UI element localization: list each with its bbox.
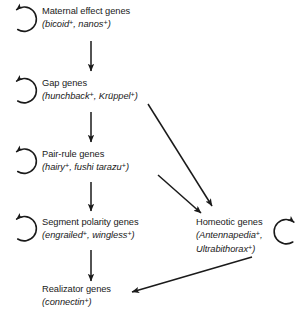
segment-polarity-genes-title: Segment polarity genes bbox=[42, 217, 139, 228]
self-regulation-loop-pair-rule bbox=[17, 149, 37, 173]
homeotic-genes-list-line2: Ultrabithorax+) bbox=[196, 242, 263, 256]
segment-polarity-genes-list: (engrailed+, wingless+) bbox=[42, 228, 139, 242]
realizator-genes-list: (connectin+) bbox=[42, 295, 111, 309]
pair-rule-genes-title: Pair-rule genes bbox=[42, 149, 129, 160]
arrow-pair-rule-to-homeotic bbox=[158, 175, 201, 213]
realizator-genes-title: Realizator genes bbox=[42, 284, 111, 295]
self-regulation-loop-gap bbox=[17, 78, 37, 102]
maternal-effect-genes-title: Maternal effect genes bbox=[42, 6, 130, 17]
self-regulation-loop-maternal bbox=[17, 7, 37, 31]
self-regulation-loop-segment-polarity bbox=[17, 216, 37, 240]
node-realizator-genes: Realizator genes (connectin+) bbox=[42, 284, 111, 309]
pair-rule-genes-list: (hairy+, fushi tarazu+) bbox=[42, 160, 129, 174]
homeotic-genes-list-line1: (Antennapedia+, bbox=[196, 228, 263, 242]
node-gap-genes: Gap genes (hunchback+, Krüppel+) bbox=[42, 78, 138, 103]
node-homeotic-genes: Homeotic genes (Antennapedia+, Ultrabith… bbox=[196, 217, 263, 256]
self-regulation-loop-homeotic bbox=[274, 219, 294, 243]
node-pair-rule-genes: Pair-rule genes (hairy+, fushi tarazu+) bbox=[42, 149, 129, 174]
arrow-gap-to-homeotic bbox=[148, 104, 212, 206]
node-segment-polarity-genes: Segment polarity genes (engrailed+, wing… bbox=[42, 217, 139, 242]
gene-hierarchy-diagram: Maternal effect genes (bicoid+, nanos+) … bbox=[0, 0, 302, 317]
maternal-effect-genes-list: (bicoid+, nanos+) bbox=[42, 17, 130, 31]
homeotic-genes-title: Homeotic genes bbox=[196, 217, 263, 228]
arrow-homeotic-to-realizator bbox=[132, 257, 252, 292]
node-maternal-effect-genes: Maternal effect genes (bicoid+, nanos+) bbox=[42, 6, 130, 31]
gap-genes-title: Gap genes bbox=[42, 78, 138, 89]
gap-genes-list: (hunchback+, Krüppel+) bbox=[42, 89, 138, 103]
